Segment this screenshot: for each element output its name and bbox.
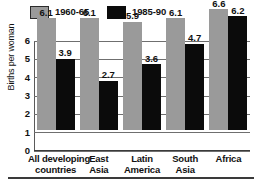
bar-value-label: 3.6 <box>145 54 158 64</box>
y-tick-label: 5 <box>25 55 30 65</box>
bars-layer: 6.13.96.12.75.93.66.14.76.66.2 <box>34 21 250 151</box>
bar-1960-65: 5.9 <box>123 22 142 130</box>
bar-1985-90: 4.7 <box>185 44 204 130</box>
y-axis-title: Births per woman <box>6 2 16 112</box>
y-tick-label: 6 <box>25 36 30 46</box>
plot-area: 0123456 6.13.96.12.75.93.66.14.76.66.2 <box>34 41 250 151</box>
bar-1960-65: 6.1 <box>80 18 99 130</box>
y-tick-label: 1 <box>25 128 30 138</box>
y-tick-label: 2 <box>25 110 30 120</box>
y-tick-label: 4 <box>25 73 30 83</box>
bar-value-label: 6.2 <box>231 6 244 16</box>
legend-swatch-1985-90-icon <box>107 6 126 19</box>
category-label: Africa <box>201 153 256 164</box>
bar-value-label: 6.1 <box>169 8 182 18</box>
bar-1960-65: 6.1 <box>166 18 185 130</box>
bar-1985-90: 2.7 <box>99 81 118 131</box>
bar-value-label: 6.1 <box>83 8 96 18</box>
bar-1960-65: 6.1 <box>37 18 56 130</box>
category-label-line: Africa <box>201 153 256 164</box>
bar-value-label: 3.9 <box>58 48 71 58</box>
bar-value-label: 5.9 <box>126 11 139 21</box>
y-tick-label: 3 <box>25 91 30 101</box>
x-axis-category-labels: All developingcountriesEastAsiaLatinAmer… <box>34 153 250 177</box>
bar-1985-90: 6.2 <box>228 16 247 130</box>
fertility-bar-chart: 1960-65 1985-90 Births per woman 0123456… <box>0 0 262 185</box>
bar-1985-90: 3.9 <box>56 59 75 131</box>
bar-value-label: 6.6 <box>212 0 225 8</box>
bar-value-label: 2.7 <box>102 70 115 80</box>
bar-value-label: 6.1 <box>39 8 52 18</box>
bottom-divider <box>8 177 254 179</box>
category-label-line: Asia <box>158 164 213 175</box>
bar-1960-65: 6.6 <box>209 9 228 130</box>
bar-value-label: 4.7 <box>188 33 201 43</box>
bar-1985-90: 3.6 <box>142 64 161 130</box>
